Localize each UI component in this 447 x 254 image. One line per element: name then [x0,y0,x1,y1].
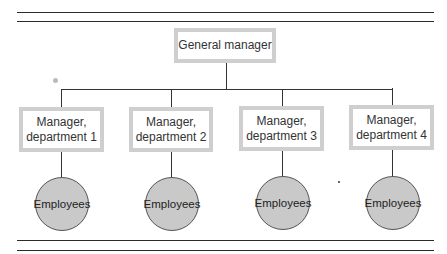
scan-speck [338,181,340,183]
employees-label: Employees [144,198,201,210]
manager-label-line2: department 2 [136,130,207,145]
manager-box-dept-4: Manager, department 4 [349,105,434,150]
employees-circle-2: Employees [145,177,199,231]
bottom-rule-2 [17,250,434,251]
manager-label-line1: Manager, [146,115,196,130]
connector-dept-2 [171,89,172,107]
employees-label: Employees [255,197,312,209]
manager-label-line1: Manager, [366,113,416,128]
root-connector [226,63,227,89]
scan-speck [53,78,58,83]
connector-dept-1 [61,89,62,107]
manager-box-dept-3: Manager, department 3 [239,106,324,151]
employees-circle-4: Employees [366,176,420,230]
manager-label-line2: department 1 [26,130,97,145]
connector-dept-3 [282,89,283,107]
bottom-rule-1 [17,240,434,241]
manager-box-dept-2: Manager, department 2 [129,107,213,152]
general-manager-label: General manager [178,38,271,53]
general-manager-box: General manager [174,28,276,63]
manager-label-line2: department 4 [356,128,427,143]
connector-employees-4 [392,150,393,176]
manager-box-dept-1: Manager, department 1 [19,107,104,152]
top-rule-1 [17,12,434,13]
connector-dept-4 [392,88,393,106]
manager-label-line2: department 3 [246,129,317,144]
employees-circle-3: Employees [256,176,310,230]
employees-label: Employees [34,198,91,210]
employees-circle-1: Employees [35,177,89,231]
manager-bus [61,89,392,90]
connector-employees-2 [171,152,172,177]
employees-label: Employees [365,197,422,209]
connector-employees-1 [61,152,62,177]
top-rule-2 [17,21,434,22]
connector-employees-3 [282,151,283,177]
manager-label-line1: Manager, [36,115,86,130]
manager-label-line1: Manager, [256,114,306,129]
